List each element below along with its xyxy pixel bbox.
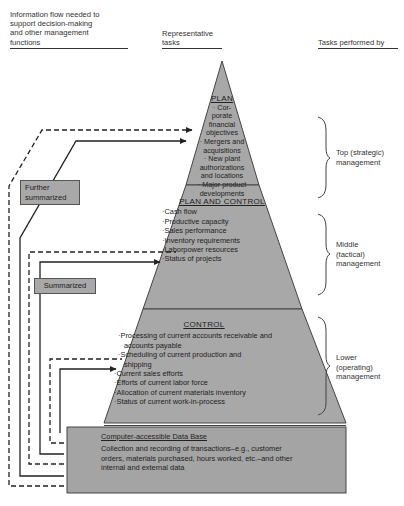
further-summarized-label: Further summarized [20,180,80,205]
brace-middle-management [318,214,330,295]
plan-tier-text: PLAN · Cor- porate financial objectives … [180,95,264,198]
task-item: Processing of current accounts receivabl… [114,331,294,350]
task-item: Current sales efforts [114,369,294,378]
mgmt-line: management [336,372,380,381]
plan-and-control-title: PLAN AND CONTROL [162,197,282,206]
task-item: Laborpower resources [162,245,282,254]
brace-top-management [318,117,330,198]
task-item: Allocation of current materials inventor… [114,388,294,397]
mgmt-line: (tactical) [336,250,365,259]
flow-label-text: Summarized [44,281,87,290]
control-list: Processing of current accounts receivabl… [114,331,294,406]
task-item: Scheduling of current production and shi… [114,350,244,369]
mgmt-line: management [336,259,380,268]
mgmt-line: (operating) [336,363,373,372]
task-item: Status of projects [162,254,282,263]
top-management-label: Top (strategic) management [336,148,384,167]
task-item: Productive capacity [162,217,282,226]
database-text: Computer-accessible Data Base Collection… [101,432,301,473]
task-item: Efforts of current labor force [114,378,294,387]
summarized-label: Summarized [34,278,96,294]
lower-management-label: Lower (operating) management [336,353,380,382]
mgmt-line: management [336,158,380,167]
plan-and-control-tier-text: PLAN AND CONTROL Cash flow Productive ca… [162,197,282,264]
mgmt-line: Middle [336,240,358,249]
database-title: Computer-accessible Data Base [101,432,301,441]
plan-and-control-list: Cash flow Productive capacity Sales perf… [162,207,282,263]
middle-management-label: Middle (tactical) management [336,240,380,269]
task-item: Status of current work-in-process [114,397,294,406]
database-description: Collection and recording of transactions… [101,444,301,472]
task-item: Sales performance [162,226,282,235]
mgmt-line: Top (strategic) [336,148,384,157]
flow-label-text: Further summarized [25,183,66,202]
control-title: CONTROL [114,320,294,329]
task-item: Cash flow [162,207,282,216]
mgmt-line: Lower [336,353,357,362]
task-item: Inventory requirements [162,236,282,245]
control-tier-text: CONTROL Processing of current accounts r… [114,320,294,407]
